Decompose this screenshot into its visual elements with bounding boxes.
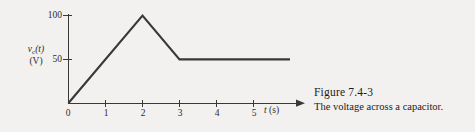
chart-area: 100 50 0 1 2 3 4 5 vc(t) (V) t (s) [0, 0, 312, 132]
voltage-waveform [69, 16, 291, 103]
y-axis-argument: (t) [35, 44, 44, 54]
x-axis-title: t (s) [264, 106, 279, 116]
figure-caption-text: The voltage across a capacitor. [314, 101, 474, 114]
figure-7-4-3: 100 50 0 1 2 3 4 5 vc(t) (V) t (s) Figur… [0, 0, 475, 132]
x-tick-label-5: 5 [244, 109, 264, 119]
x-tick-label-2: 2 [133, 109, 153, 119]
y-axis-units: (V) [14, 56, 58, 67]
x-tick-label-0: 0 [58, 109, 78, 119]
x-axis-arrow-icon [296, 100, 305, 107]
x-axis-units: (s) [269, 105, 279, 115]
figure-caption-title: Figure 7.4-3 [314, 86, 474, 100]
x-tick-label-1: 1 [96, 109, 116, 119]
x-axis-variable: t [264, 105, 267, 115]
y-axis-title: vc(t) (V) [14, 44, 58, 67]
figure-caption: Figure 7.4-3 The voltage across a capaci… [314, 86, 474, 113]
x-tick-label-3: 3 [170, 109, 190, 119]
y-tick-label-100: 100 [40, 11, 62, 21]
x-tick-label-4: 4 [207, 109, 227, 119]
